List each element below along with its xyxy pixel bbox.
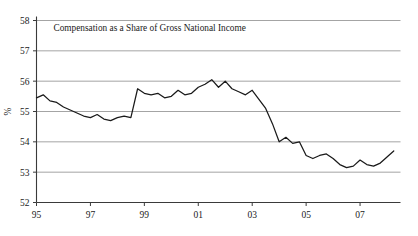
y-tick-labels: 58575655545352 <box>20 16 30 208</box>
x-tick-labels: 95979901030507 <box>32 210 365 220</box>
y-axis-title: % <box>3 107 13 115</box>
gridlines <box>37 21 401 173</box>
x-tick-label: 97 <box>86 210 96 220</box>
axis-ticks <box>33 21 360 207</box>
y-tick-label: 55 <box>20 107 30 117</box>
x-tick-label: 99 <box>140 210 150 220</box>
x-tick-label: 95 <box>32 210 42 220</box>
y-tick-label: 53 <box>20 168 30 178</box>
y-tick-label: 56 <box>20 77 30 87</box>
chart-title: Compensation as a Share of Gross Nationa… <box>54 23 246 33</box>
y-tick-label: 52 <box>20 198 30 208</box>
x-tick-label: 03 <box>247 210 257 220</box>
x-tick-label: 01 <box>194 210 204 220</box>
y-tick-label: 57 <box>20 46 30 56</box>
chart-container: 58575655545352 95979901030507 % Compensa… <box>0 0 418 236</box>
line-chart: 58575655545352 95979901030507 % Compensa… <box>0 0 418 236</box>
y-tick-label: 54 <box>20 137 30 147</box>
data-series-line <box>37 80 394 168</box>
y-tick-label: 58 <box>20 16 30 26</box>
x-tick-label: 05 <box>301 210 311 220</box>
x-tick-label: 07 <box>355 210 365 220</box>
